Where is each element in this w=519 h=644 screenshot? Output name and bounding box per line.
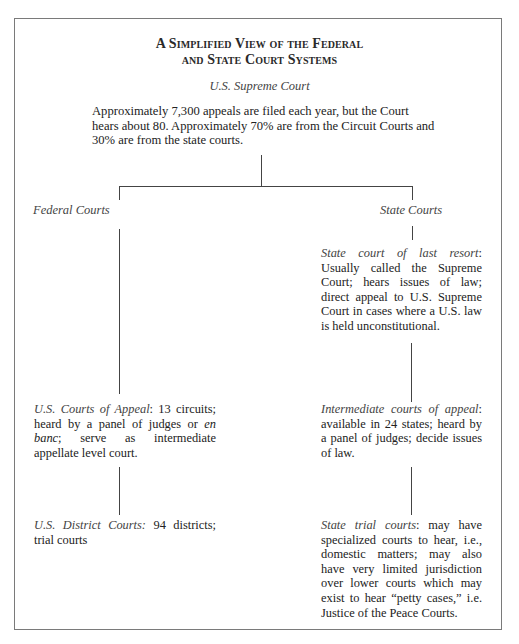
title-line-1: A Simplified View of the Federal (0, 36, 519, 52)
trial-lead: State trial courts (321, 518, 416, 532)
connector-supreme-down (261, 155, 262, 187)
intermediate-lead: Intermediate courts of appeal (321, 402, 479, 416)
connector-federal-branch (119, 186, 120, 200)
courts-of-appeal-lead: U.S. Courts of Appeal (34, 402, 150, 416)
federal-courts-of-appeal: U.S. Courts of Appeal: 13 circuits; hear… (34, 402, 216, 460)
connector-horizontal-branch (119, 186, 413, 187)
district-courts-lead: U.S. District Courts: (34, 518, 146, 532)
title-line-2: and State Court Systems (0, 52, 519, 68)
trial-text: : may have specialized courts to hear, i… (321, 518, 482, 620)
state-court-of-last-resort: State court of last resort: Usually call… (321, 246, 482, 334)
connector-intermediate-to-trial (411, 467, 412, 515)
connector-federal-to-appeals (119, 229, 120, 394)
state-intermediate-courts: Intermediate courts of appeal: available… (321, 402, 482, 460)
courts-of-appeal-text-2: ; serve as intermediate appellate level … (34, 431, 216, 460)
federal-district-courts: U.S. District Courts: 94 districts; tria… (34, 518, 216, 547)
supreme-court-description: Approximately 7,300 appeals are filed ea… (92, 104, 437, 148)
diagram-title: A Simplified View of the Federal and Sta… (0, 36, 519, 68)
connector-last-resort-to-intermediate (411, 343, 412, 402)
last-resort-lead: State court of last resort (321, 246, 479, 260)
connector-state-to-last-resort (412, 226, 413, 240)
federal-courts-label: Federal Courts (33, 203, 110, 218)
connector-appeals-to-district (119, 467, 120, 515)
state-trial-courts: State trial courts: may have specialized… (321, 518, 482, 620)
state-courts-label: State Courts (380, 203, 442, 218)
supreme-court-label: U.S. Supreme Court (0, 79, 519, 94)
connector-state-branch (412, 186, 413, 200)
